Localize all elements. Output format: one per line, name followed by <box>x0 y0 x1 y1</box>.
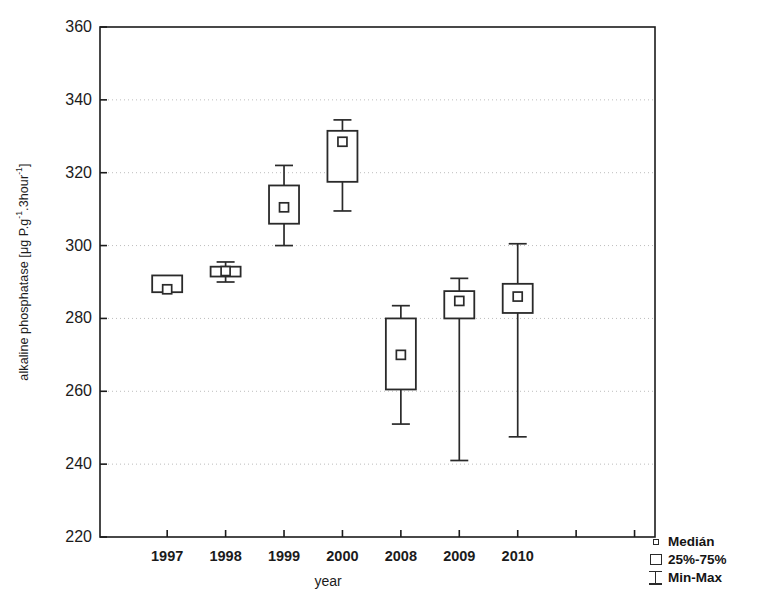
x-tick-label-2008: 2008 <box>385 548 417 564</box>
x-tick-label-1997: 1997 <box>151 548 183 564</box>
minmax-marker-icon <box>648 571 663 585</box>
legend-label-median: Medián <box>668 533 715 551</box>
x-tick-label-1999: 1999 <box>268 548 300 564</box>
legend-item-median: Medián <box>648 533 764 551</box>
x-axis-tick-labels: 1997199819992000200820092010 <box>0 0 764 610</box>
x-axis-title: year <box>0 573 656 589</box>
legend-label-minmax: Min-Max <box>668 569 722 587</box>
median-marker-icon <box>648 539 663 545</box>
chart-legend: Medián 25%-75% Min-Max <box>648 533 764 586</box>
legend-label-quartiles: 25%-75% <box>668 551 727 569</box>
box-marker-icon <box>648 554 663 565</box>
x-tick-label-1998: 1998 <box>209 548 241 564</box>
legend-item-minmax: Min-Max <box>648 569 764 587</box>
x-tick-label-2010: 2010 <box>502 548 534 564</box>
x-tick-label-2000: 2000 <box>326 548 358 564</box>
legend-item-quartiles: 25%-75% <box>648 551 764 569</box>
boxplot-figure: alkaline phosphatase [μg P.g-1.3hour-1] … <box>0 0 764 610</box>
x-tick-label-2009: 2009 <box>443 548 475 564</box>
